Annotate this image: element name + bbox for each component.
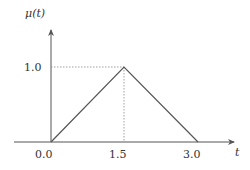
membership-function-chart: μ(t) 1.0 0.0 1.5 3.0 t	[0, 0, 250, 170]
y-axis-label: μ(t)	[25, 7, 45, 20]
x-tick-0-0: 0.0	[35, 148, 53, 161]
x-axis-label: t	[235, 146, 240, 159]
y-tick-1-0: 1.0	[24, 61, 42, 74]
x-tick-1-5: 1.5	[109, 148, 127, 161]
x-tick-3-0: 3.0	[183, 148, 201, 161]
triangle-series	[51, 67, 198, 142]
